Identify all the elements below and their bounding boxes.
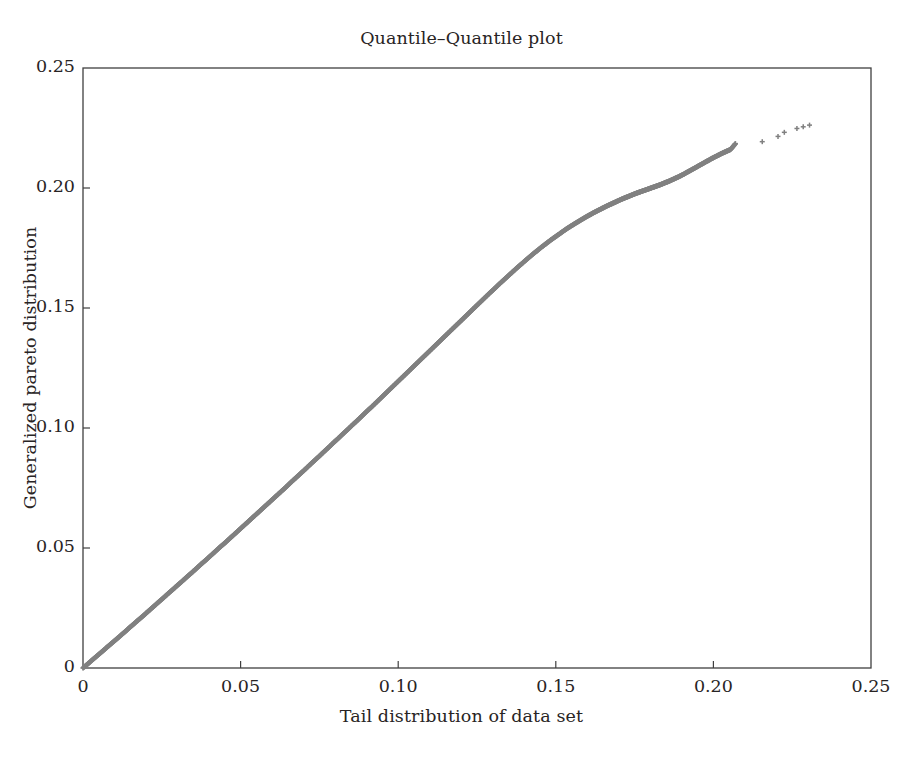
upper-tail-outlier-markers [760,123,812,145]
qq-plot-figure: Quantile–Quantile plot Generalized paret… [0,0,923,764]
x-tick-label: 0.20 [673,676,753,696]
data-series-markers [81,123,813,671]
tick-marks [83,188,713,668]
x-tick-label: 0.05 [201,676,281,696]
x-tick-label: 0.10 [358,676,438,696]
y-tick-label: 0.10 [0,416,75,436]
quantile-point-band [81,141,738,670]
x-tick-label: 0.25 [831,676,911,696]
y-tick-label: 0.20 [0,176,75,196]
y-tick-label: 0.25 [0,56,75,76]
y-tick-label: 0 [0,656,75,676]
x-tick-label: 0 [43,676,123,696]
axes-frame [83,68,871,668]
plot-border [83,68,871,668]
y-tick-label: 0.05 [0,536,75,556]
x-tick-label: 0.15 [516,676,596,696]
plot-axes [0,0,923,764]
y-tick-label: 0.15 [0,296,75,316]
